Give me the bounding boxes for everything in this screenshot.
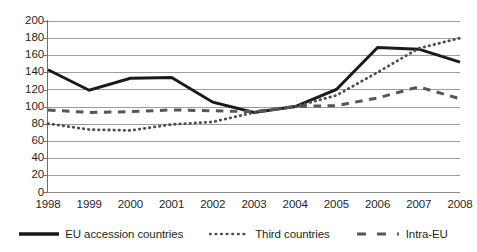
y-axis-tick-label: 20 bbox=[0, 169, 44, 181]
legend-item-eu-accession-countries[interactable]: EU accession countries bbox=[19, 228, 183, 241]
series-paths bbox=[48, 38, 460, 130]
x-axis-tick-label: 2001 bbox=[149, 198, 195, 211]
x-axis-tick-label: 2002 bbox=[190, 198, 236, 211]
legend-item-intra-eu[interactable]: Intra-EU bbox=[356, 228, 448, 241]
x-axis-tick-label: 2008 bbox=[437, 198, 477, 211]
chart-top-edge bbox=[0, 0, 467, 1]
y-axis-tick-label: 160 bbox=[0, 49, 44, 61]
legend-swatch-dashed-icon bbox=[356, 230, 400, 238]
x-axis-tick-label: 2000 bbox=[107, 198, 153, 211]
x-axis-tick-label: 2005 bbox=[313, 198, 359, 211]
y-axis-tick-label: 200 bbox=[0, 15, 44, 27]
x-axis-tick-label: 2007 bbox=[396, 198, 442, 211]
x-axis-tick-label: 2004 bbox=[272, 198, 318, 211]
series-line-eu-accession-countries bbox=[48, 48, 460, 113]
y-axis-tick-label: 100 bbox=[0, 101, 44, 113]
x-axis-tick-label: 2006 bbox=[355, 198, 401, 211]
y-axis-tick-label: 0 bbox=[0, 187, 44, 199]
y-axis-tick-label: 40 bbox=[0, 152, 44, 164]
series-line-intra-eu bbox=[48, 87, 460, 113]
y-axis-tick-label: 180 bbox=[0, 32, 44, 44]
x-axis-tick-label: 1999 bbox=[66, 198, 112, 211]
x-axis-tick-label: 1998 bbox=[25, 198, 71, 211]
legend-label: Third countries bbox=[255, 228, 330, 241]
x-axis-tick-label: 2003 bbox=[231, 198, 277, 211]
y-axis-tick-label: 60 bbox=[0, 135, 44, 147]
legend-swatch-dotted-icon bbox=[209, 230, 249, 238]
y-axis-tick-label: 80 bbox=[0, 118, 44, 130]
legend-swatch-solid-icon bbox=[19, 230, 59, 238]
legend-item-third-countries[interactable]: Third countries bbox=[209, 228, 330, 241]
x-axis-labels: 1998199920002001200220032004200520062007… bbox=[48, 198, 460, 214]
chart-legend: EU accession countries Third countries I… bbox=[0, 222, 467, 246]
y-axis-labels: 200 180 160 140 120 100 80 60 40 20 0 bbox=[0, 0, 44, 252]
y-axis-tick-label: 120 bbox=[0, 84, 44, 96]
legend-label: Intra-EU bbox=[406, 228, 448, 241]
y-axis-tick-label: 140 bbox=[0, 66, 44, 78]
gridline bbox=[48, 192, 460, 193]
legend-label: EU accession countries bbox=[65, 228, 183, 241]
series-layer bbox=[48, 21, 460, 192]
